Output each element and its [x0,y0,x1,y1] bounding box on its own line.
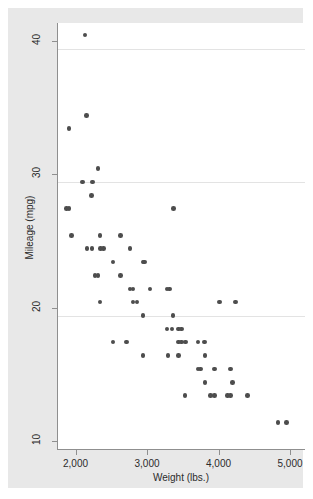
data-point [179,327,184,332]
data-point [196,340,201,345]
data-point [165,327,170,332]
data-point [217,300,222,305]
data-point [90,180,95,185]
y-axis-title: Mileage (mpg) [24,168,35,288]
y-tick [52,308,57,309]
data-point [89,193,94,198]
data-point [166,353,171,358]
data-point [101,246,106,251]
scatter-plot-figure: 10203040 2,0003,0004,0005,000 Mileage (m… [0,0,313,499]
data-point [171,313,176,318]
y-axis-line [57,23,58,450]
x-tick-label: 4,000 [197,458,241,469]
data-point [98,233,103,238]
data-point [203,353,208,358]
data-point [84,113,89,118]
data-point [202,340,207,345]
x-tick-label: 3,000 [125,458,169,469]
data-point [96,166,101,171]
data-point [176,353,181,358]
data-point [98,300,103,305]
gridline [57,49,305,50]
data-point [230,380,235,385]
data-point [142,260,147,265]
data-point [80,180,85,185]
data-point [131,287,136,292]
gridline [57,316,305,317]
data-point [167,287,172,292]
data-point [85,246,90,251]
x-tick [76,450,77,455]
data-point [83,33,88,38]
data-point [118,233,123,238]
graph-region: 10203040 2,0003,0004,0005,000 Mileage (m… [8,8,303,488]
data-point [128,246,133,251]
x-tick-label: 5,000 [268,458,312,469]
data-point [96,273,101,278]
data-point [118,273,123,278]
x-tick-label: 2,000 [54,458,98,469]
data-point [212,367,217,372]
data-point [228,367,233,372]
y-tick-label: 10 [31,425,42,455]
data-point [111,260,116,265]
x-tick [219,450,220,455]
data-point [124,340,129,345]
data-point [69,233,74,238]
x-axis-line [57,449,305,450]
data-point [276,420,281,425]
x-axis-title: Weight (lbs.) [57,472,305,483]
data-point [141,353,146,358]
data-point [111,340,116,345]
data-point [67,126,72,131]
data-point [245,393,250,398]
y-tick-label: 20 [31,291,42,321]
data-point [203,380,208,385]
data-point [183,393,188,398]
data-point [233,300,238,305]
data-point [228,393,233,398]
data-point [171,206,176,211]
y-tick [52,41,57,42]
data-point [148,287,153,292]
plot-area [57,23,305,449]
x-tick [147,450,148,455]
y-tick [52,174,57,175]
data-point [183,340,188,345]
data-point [212,393,217,398]
data-point [141,313,146,318]
data-point [90,246,95,251]
data-point [67,206,72,211]
data-point [198,367,203,372]
y-tick-label: 40 [31,24,42,54]
data-point [284,420,289,425]
data-point [135,300,140,305]
y-tick [52,441,57,442]
data-point [170,327,175,332]
x-tick [290,450,291,455]
